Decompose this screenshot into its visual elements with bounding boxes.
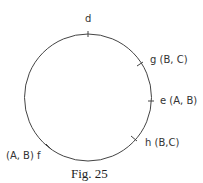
- label-e: e (A, B): [160, 95, 197, 106]
- label-d: d: [85, 13, 91, 24]
- tick-f: [46, 144, 52, 150]
- figure-caption: Fig. 25: [71, 166, 108, 181]
- label-f: (A, B) f: [6, 150, 41, 161]
- label-h: h (B,C): [145, 137, 179, 148]
- label-g: g (B, C): [150, 54, 188, 65]
- circle-diagram: d g (B, C) e (A, B) h (B,C) (A, B) f Fig…: [0, 0, 203, 183]
- circle: [25, 34, 152, 161]
